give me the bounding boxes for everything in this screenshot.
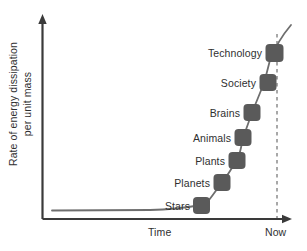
y-axis-label: Rate of energy dissipation per unit mass <box>2 18 38 190</box>
point-label-animals: Animals <box>171 132 231 144</box>
marker-plants <box>229 152 246 169</box>
point-label-stars: Stars <box>130 200 190 212</box>
x-axis-label-now: Now <box>265 226 286 238</box>
chart-canvas <box>0 0 307 251</box>
y-axis-label-line-2: per unit mass <box>20 18 34 190</box>
marker-society <box>260 74 277 91</box>
y-axis-label-line-1: Rate of energy dissipation <box>6 18 20 190</box>
point-label-society: Society <box>196 77 256 89</box>
marker-brains <box>244 104 261 121</box>
y-axis-arrowhead <box>38 14 46 24</box>
point-label-planets: Planets <box>150 177 210 189</box>
x-axis-arrowhead <box>282 215 292 223</box>
point-label-technology: Technology <box>182 47 262 59</box>
chart-figure: Rate of energy dissipation per unit mass… <box>0 0 307 251</box>
marker-technology <box>266 44 284 62</box>
marker-animals <box>235 129 252 146</box>
marker-planets <box>214 174 231 191</box>
point-label-brains: Brains <box>180 107 240 119</box>
marker-stars <box>193 197 210 214</box>
x-axis-label-time: Time <box>148 226 171 238</box>
point-label-plants: Plants <box>165 155 225 167</box>
